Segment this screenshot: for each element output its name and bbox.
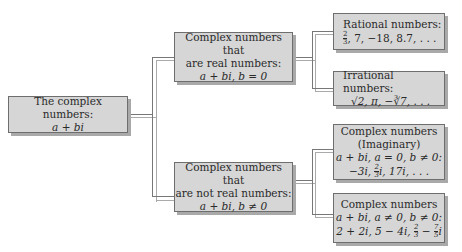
connector-to-real-shadow: [156, 60, 176, 61]
complex-title: Complex numbers: [341, 198, 438, 211]
not-real-numbers-box: Complex numbers that are not real number…: [174, 162, 293, 212]
connector-real-vertical: [312, 31, 313, 88]
complex-condition: a + bi, a ≠ 0, b ≠ 0:: [336, 211, 442, 224]
connector-to-complex-shadow: [315, 217, 333, 218]
complex-ex-mid: −: [418, 224, 433, 236]
rational-list: , 7, −18, 8.7, . . .: [347, 31, 436, 43]
real-numbers-box: Complex numbers that are real numbers: a…: [174, 32, 293, 82]
notreal-title-line2: are not real numbers:: [175, 187, 291, 200]
connector-to-irrational: [312, 88, 333, 89]
notreal-title-line1: Complex numbers that: [175, 161, 292, 187]
irrational-numbers-box: Irrational numbers: √2, π, −∛7, . . .: [333, 71, 445, 106]
imaginary-numbers-box: Complex numbers (Imaginary) a + bi, a = …: [333, 124, 445, 180]
imaginary-title-line1: Complex numbers: [341, 125, 438, 138]
complex-ex-b: i: [438, 224, 441, 236]
connector-root-horizontal: [128, 114, 153, 115]
connector-middle-vertical-shadow: [156, 60, 157, 202]
root-formula: a + bi: [52, 121, 84, 134]
connector-to-complex: [312, 214, 333, 215]
real-title-line2: are real numbers:: [186, 57, 281, 70]
irrational-title: Irrational numbers:: [343, 69, 444, 95]
connector-to-irrational-shadow: [315, 91, 333, 92]
connector-to-not-real-shadow: [156, 200, 176, 201]
real-title-line1: Complex numbers that: [175, 31, 292, 57]
connector-notreal-vertical: [312, 149, 313, 214]
root-box: The complex numbers: a + bi: [8, 96, 128, 133]
imaginary-examples: −3i, 23i, 17i, . . .: [349, 164, 429, 179]
notreal-formula: a + bi, b ≠ 0: [200, 200, 267, 213]
rational-examples: 23, 7, −18, 8.7, . . .: [343, 31, 436, 46]
connector-to-rational: [312, 31, 333, 32]
connector-to-imaginary-shadow: [315, 152, 333, 153]
connector-real-vertical-shadow: [315, 34, 316, 91]
irrational-examples: √2, π, −∛7, . . .: [343, 95, 430, 108]
connector-notreal-horizontal: [293, 180, 312, 181]
real-formula: a + bi, b = 0: [200, 70, 267, 83]
connector-middle-vertical: [152, 57, 153, 196]
imaginary-ex-b: i, 17i, . . .: [379, 165, 429, 177]
rational-title: Rational numbers:: [343, 18, 441, 31]
imaginary-condition: a + bi, a = 0, b ≠ 0:: [336, 151, 442, 164]
imaginary-ex-a: −3i,: [349, 165, 375, 177]
complex-numbers-box: Complex numbers a + bi, a ≠ 0, b ≠ 0: 2 …: [333, 193, 445, 243]
connector-to-real: [152, 57, 176, 58]
connector-to-rational-shadow: [315, 34, 333, 35]
root-title: The complex numbers:: [9, 95, 127, 121]
connector-real-horizontal: [293, 57, 312, 58]
connector-to-not-real: [152, 196, 176, 197]
complex-examples: 2 + 2i, 5 − 4i, 23 − 75i: [336, 224, 442, 239]
connector-notreal-vertical-shadow: [315, 152, 316, 217]
connector-to-imaginary: [312, 149, 333, 150]
imaginary-title-line2: (Imaginary): [358, 138, 421, 151]
rational-numbers-box: Rational numbers: 23, 7, −18, 8.7, . . .: [333, 13, 445, 50]
complex-ex-a: 2 + 2i, 5 − 4i,: [336, 224, 414, 236]
